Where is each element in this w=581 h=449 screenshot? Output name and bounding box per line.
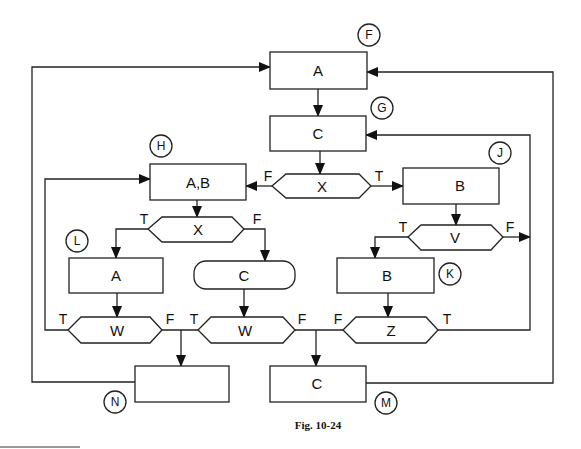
connector-l: L	[66, 230, 88, 252]
connector-k: K	[439, 263, 461, 285]
label-z-f: F	[334, 311, 343, 327]
svg-text:J: J	[497, 146, 503, 160]
box-b-k-label: B	[382, 267, 392, 284]
connector-h: H	[150, 135, 172, 157]
edge-x-false-to-c	[244, 229, 265, 261]
decision-w-left-label: W	[110, 322, 125, 339]
box-b-right-label: B	[455, 177, 465, 194]
figure-caption: Fig. 10-24	[295, 419, 342, 431]
label-xtop-f: F	[264, 168, 273, 184]
label-w1-f: F	[166, 311, 175, 327]
flowchart: A C X A,B B X V A C B W W Z C F T T F T …	[0, 0, 581, 449]
process-box-n	[135, 366, 229, 402]
edge-x-true-to-a	[116, 229, 148, 258]
label-v-f: F	[506, 219, 515, 235]
label-xleft-t: T	[140, 211, 149, 227]
box-a-l-label: A	[111, 267, 121, 284]
label-v-t: T	[399, 219, 408, 235]
svg-text:H: H	[157, 139, 166, 153]
connector-f: F	[358, 24, 380, 46]
svg-text:F: F	[365, 28, 372, 42]
page-edge-rule	[0, 446, 80, 448]
label-xtop-t: T	[375, 168, 384, 184]
svg-text:G: G	[377, 101, 386, 115]
connector-n: N	[104, 391, 126, 413]
label-w2-t: T	[190, 311, 199, 327]
label-z-t: T	[443, 311, 452, 327]
box-c-top-label: C	[313, 125, 324, 142]
decision-w-mid-label: W	[238, 322, 253, 339]
box-ab-label: A,B	[186, 174, 210, 191]
label-w1-t: T	[59, 311, 68, 327]
svg-text:K: K	[446, 267, 454, 281]
connector-g: G	[371, 97, 393, 119]
box-a-top-label: A	[313, 62, 323, 79]
svg-text:N: N	[111, 395, 120, 409]
edge-w1-true-to-h	[45, 179, 150, 330]
decision-v-label: V	[450, 229, 460, 246]
decision-z-label: Z	[386, 322, 395, 339]
box-m-label: C	[312, 375, 323, 392]
edge-v-true-to-b	[375, 237, 408, 258]
label-xleft-f: F	[253, 211, 262, 227]
svg-text:L: L	[74, 234, 81, 248]
connector-m: M	[375, 392, 397, 414]
decision-x-left-label: X	[193, 221, 203, 238]
decision-x-top-label: X	[317, 178, 327, 195]
terminal-c-label: C	[239, 267, 250, 284]
svg-text:M: M	[381, 396, 391, 410]
process-box-b-right	[403, 168, 499, 204]
connector-j: J	[489, 142, 511, 164]
label-w2-f: F	[298, 311, 307, 327]
